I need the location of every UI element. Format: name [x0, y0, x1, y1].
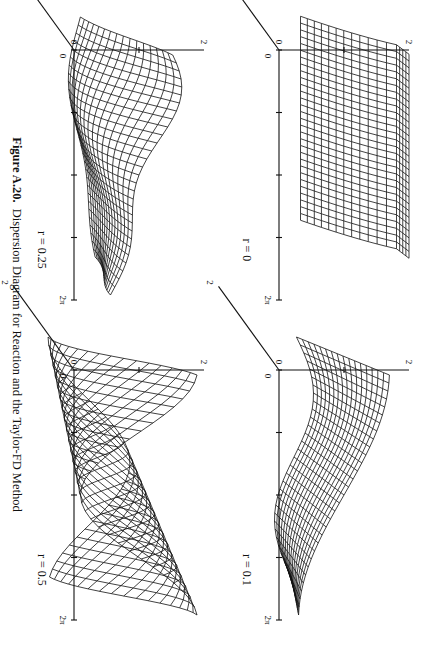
- svg-text:2: 2: [199, 360, 209, 365]
- figure-caption: Figure A.20.Dispersion Diagram for React…: [9, 0, 24, 649]
- figure-number: Figure A.20.: [10, 137, 24, 202]
- panel-label: r = 0.1: [239, 510, 254, 630]
- svg-text:0: 0: [274, 40, 284, 45]
- wireframe-mesh: [275, 337, 390, 615]
- panel-label: r = 0.25: [34, 190, 49, 310]
- panel-r-0-1: 02π022 r = 0.1: [229, 330, 429, 649]
- svg-text:0: 0: [263, 54, 273, 59]
- svg-text:2π: 2π: [263, 295, 273, 305]
- wireframe-mesh: [301, 16, 410, 258]
- panel-label: r = 0.5: [34, 510, 49, 630]
- tick-labels: 02π022: [0, 280, 209, 625]
- svg-text:0: 0: [69, 40, 79, 45]
- wireframe-mesh: [68, 17, 181, 295]
- svg-text:0: 0: [69, 360, 79, 365]
- surface-plot-r-0-5: 02π022: [24, 330, 224, 649]
- panel-r-0-25: 02π022 r = 0.25: [24, 10, 224, 330]
- svg-text:0: 0: [274, 360, 284, 365]
- surface-plot-r-0: 02π022: [229, 10, 429, 330]
- figure-page: 02π022 r = 0 02π022 r = 0.1 02π022 r = 0…: [0, 0, 439, 649]
- svg-text:2π: 2π: [58, 615, 68, 625]
- tick-labels: 02π022: [205, 0, 415, 305]
- svg-text:0: 0: [263, 374, 273, 379]
- panel-r-0: 02π022 r = 0: [229, 10, 429, 330]
- svg-text:2π: 2π: [58, 295, 68, 305]
- svg-text:2: 2: [199, 40, 209, 45]
- svg-text:0: 0: [58, 374, 68, 379]
- svg-text:2: 2: [404, 360, 414, 365]
- panel-label: r = 0: [239, 190, 254, 310]
- surface-plot-r-0-1: 02π022: [229, 330, 429, 649]
- svg-text:2: 2: [404, 40, 414, 45]
- svg-text:2π: 2π: [263, 615, 273, 625]
- panel-r-0-5: 02π022 r = 0.5: [24, 330, 224, 649]
- figure-caption-text: Dispersion Diagram for Reaction and the …: [10, 209, 24, 512]
- surface-plot-r-0-25: 02π022: [24, 10, 224, 330]
- svg-text:0: 0: [58, 54, 68, 59]
- wireframe-mesh: [48, 337, 197, 615]
